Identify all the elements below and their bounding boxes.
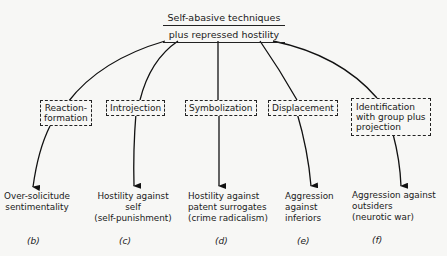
mechanism-introjection: Introjection	[106, 100, 165, 116]
outcome-text: outsiders	[352, 201, 436, 212]
outcome-aggression-inferiors: Aggression against inferiors	[285, 191, 334, 224]
outcome-text: (crime radicalism)	[188, 213, 268, 224]
label-b: (b)	[27, 236, 40, 246]
mechanism-reaction-formation: Reaction- formation	[40, 100, 92, 126]
mechanism-identification: Identification with group plus projectio…	[351, 98, 431, 136]
outcome-hostility-surrogates: Hostility against patent surrogates (cri…	[188, 191, 268, 224]
mechanism-text: Displacement	[272, 103, 334, 113]
label-f: (f)	[372, 235, 382, 245]
outcome-text: inferiors	[285, 213, 334, 224]
outcome-text: sentimentality	[2, 202, 72, 213]
mechanism-text: Introjection	[110, 103, 161, 113]
outcome-text: self	[90, 202, 176, 213]
mechanism-text: projection	[356, 122, 426, 132]
mechanism-text: with group plus	[356, 112, 426, 122]
label-c: (c)	[119, 236, 131, 246]
root-concept: Self-abasive techniques plus repressed h…	[163, 11, 285, 43]
mechanism-text: formation	[44, 113, 88, 123]
outcome-text: against	[285, 202, 334, 213]
outcome-text: (neurotic war)	[352, 212, 436, 223]
mechanism-text: Identification	[356, 102, 426, 112]
mechanism-symbolization: Symbolization	[185, 100, 257, 116]
outcome-aggression-outsiders: Aggression against outsiders (neurotic w…	[352, 190, 436, 223]
outcome-text: (self-punishment)	[90, 213, 176, 224]
outcome-hostility-self: Hostility against self (self-punishment)	[90, 191, 176, 224]
mechanism-displacement: Displacement	[268, 100, 338, 116]
outcome-text: Aggression against	[352, 190, 436, 201]
root-line-2: plus repressed hostility	[163, 26, 285, 43]
mechanism-text: Reaction-	[44, 103, 88, 113]
outcome-text: Hostility against	[90, 191, 176, 202]
mechanism-text: Symbolization	[189, 103, 253, 113]
label-e: (e)	[297, 236, 310, 246]
outcome-text: Hostility against	[188, 191, 268, 202]
root-line-1: Self-abasive techniques	[163, 11, 285, 26]
outcome-text: patent surrogates	[188, 202, 268, 213]
outcome-text: Over-solicitude	[2, 191, 72, 202]
outcome-text: Aggression	[285, 191, 334, 202]
label-d: (d)	[215, 236, 228, 246]
outcome-over-solicitude: Over-solicitude sentimentality	[2, 191, 72, 213]
